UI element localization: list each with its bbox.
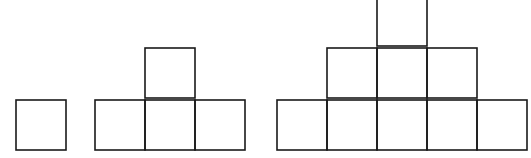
square-cell <box>95 100 145 150</box>
square-cell <box>427 48 477 98</box>
square-cell <box>277 100 327 150</box>
square-cell <box>427 100 477 150</box>
square-cell <box>327 100 377 150</box>
square-cell <box>145 48 195 98</box>
figure-2 <box>95 48 245 150</box>
figure-3 <box>277 0 527 150</box>
square-cell <box>16 100 66 150</box>
square-cell <box>477 100 527 150</box>
diagram-canvas <box>0 0 531 158</box>
square-cell <box>377 100 427 150</box>
square-cell <box>195 100 245 150</box>
square-cell <box>377 0 427 46</box>
square-cell <box>145 100 195 150</box>
square-cell <box>327 48 377 98</box>
square-cell <box>377 48 427 98</box>
figure-1 <box>16 100 66 150</box>
